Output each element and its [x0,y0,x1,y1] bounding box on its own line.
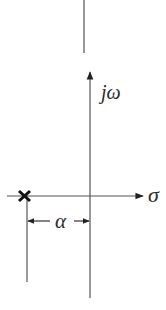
alpha-dimension-label: α [55,209,67,233]
imaginary-axis-label: jω [98,81,121,104]
s-plane-diagram: jω σ α [0,0,166,310]
real-axis-label: σ [148,182,160,207]
